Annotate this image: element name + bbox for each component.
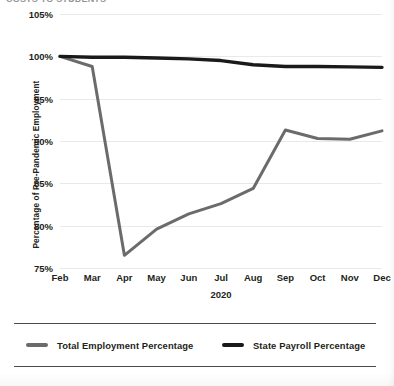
legend-item-state-payroll-percentage: State Payroll Percentage bbox=[222, 324, 365, 366]
chart-legend: Total Employment Percentage State Payrol… bbox=[14, 323, 376, 367]
legend-item-total-employment-percentage: Total Employment Percentage bbox=[26, 324, 222, 366]
chart-figure: COSTS TO STUDENTS Percentage of Pre-Pand… bbox=[0, 0, 394, 386]
x-axis-tick-label: Aug bbox=[244, 272, 262, 283]
scan-edge-bottom bbox=[0, 372, 394, 386]
legend-label-total-employment-percentage: Total Employment Percentage bbox=[57, 340, 193, 351]
x-axis-tick-label: Sep bbox=[277, 272, 294, 283]
y-axis-tick-label: 75% bbox=[34, 263, 53, 274]
series-line bbox=[60, 56, 382, 255]
plot-area: 75%80%85%90%95%100%105% bbox=[60, 14, 382, 268]
x-axis-tick-labels: FebMarAprMayJunJulAugSepOctNovDec bbox=[60, 272, 382, 286]
legend-swatch-total-employment-percentage bbox=[26, 343, 48, 347]
x-axis-tick-label: May bbox=[147, 272, 165, 283]
scan-edge-right bbox=[388, 0, 394, 386]
clipped-chart-title: COSTS TO STUDENTS bbox=[0, 0, 394, 8]
x-axis-tick-label: Jul bbox=[214, 272, 228, 283]
y-axis-tick-label: 95% bbox=[34, 93, 53, 104]
x-axis-tick-label: Oct bbox=[310, 272, 326, 283]
y-axis-tick-label: 100% bbox=[29, 51, 53, 62]
x-axis-tick-label: Mar bbox=[84, 272, 101, 283]
gridline bbox=[60, 268, 382, 269]
legend-label-state-payroll-percentage: State Payroll Percentage bbox=[253, 340, 365, 351]
x-axis-title: 2020 bbox=[60, 289, 382, 300]
series-lines bbox=[60, 14, 382, 268]
x-axis-tick-label: Jun bbox=[180, 272, 197, 283]
legend-swatch-state-payroll-percentage bbox=[222, 343, 244, 347]
clipped-chart-title-text: COSTS TO STUDENTS bbox=[6, 0, 106, 4]
y-axis-tick-label: 85% bbox=[34, 178, 53, 189]
series-line bbox=[60, 56, 382, 67]
y-axis-tick-label: 105% bbox=[29, 9, 53, 20]
y-axis-tick-label: 90% bbox=[34, 136, 53, 147]
y-axis-tick-label: 80% bbox=[34, 220, 53, 231]
x-axis-tick-label: Feb bbox=[52, 272, 69, 283]
x-axis-tick-label: Nov bbox=[341, 272, 359, 283]
x-axis-tick-label: Apr bbox=[116, 272, 132, 283]
